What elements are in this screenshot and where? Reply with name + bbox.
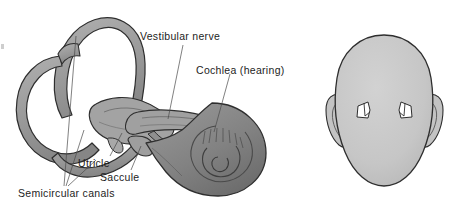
inner-ear-labyrinth <box>16 18 266 196</box>
figure-artwork <box>0 0 464 210</box>
head-outline <box>335 35 432 186</box>
label-utricle: Utricle <box>78 158 110 169</box>
label-cochlea: Cochlea (hearing) <box>196 65 285 76</box>
scan-artifact <box>1 44 4 49</box>
head-rear-view <box>326 35 443 186</box>
label-vestibular-nerve: Vestibular nerve <box>140 31 220 42</box>
label-saccule: Saccule <box>100 172 139 183</box>
inner-ear-figure: Vestibular nerve Cochlea (hearing) Utric… <box>0 0 464 210</box>
leader-vestibular-nerve <box>168 45 183 119</box>
label-semicircular-canals: Semicircular canals <box>18 188 115 199</box>
